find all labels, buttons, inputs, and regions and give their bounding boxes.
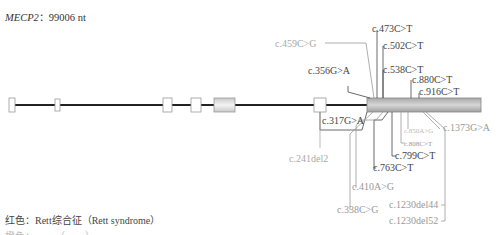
mutation-label: c.473C>T xyxy=(372,23,412,34)
mutation-label: c.459C>G xyxy=(275,38,316,49)
legend-red: 红色：Rett综合征（Rett syndrome） xyxy=(5,212,160,227)
legend-orange: 橙色：……（……） xyxy=(5,228,95,235)
mutation-label: c.1373G>A xyxy=(443,122,491,133)
mutation-label: c.799C>T xyxy=(395,150,435,161)
gene-structure-diagram: c.459C>G c.473C>T c.502C>T c.356G>A c.53… xyxy=(0,0,499,235)
mutation-label: c.317G>A xyxy=(322,115,365,126)
mutation-label: c.241del2 xyxy=(289,153,328,164)
mutation-label: c.338C>G xyxy=(337,204,378,215)
mutation-label: c.850A>G xyxy=(404,127,433,135)
mutation-label: c.1230del44 xyxy=(389,199,438,210)
mutation-label: c.356G>A xyxy=(308,65,351,76)
exon-3 xyxy=(163,98,172,112)
exon-7-large xyxy=(367,98,481,112)
exon-4 xyxy=(191,98,201,112)
mutation-label: c.880C>T xyxy=(412,74,452,85)
exon-2 xyxy=(55,99,60,111)
mutation-label: c.502C>T xyxy=(383,40,423,51)
mutation-label: c.808C>T xyxy=(404,140,433,148)
mutation-label: c.410A>G xyxy=(352,181,394,192)
exon-6 xyxy=(314,98,326,112)
exon-1 xyxy=(9,98,15,112)
mutation-label: c.916C>T xyxy=(419,86,459,97)
mutation-label: c.763C>T xyxy=(373,162,413,173)
mutation-label: c.1230del52 xyxy=(389,215,438,226)
exon-5 xyxy=(214,98,235,112)
